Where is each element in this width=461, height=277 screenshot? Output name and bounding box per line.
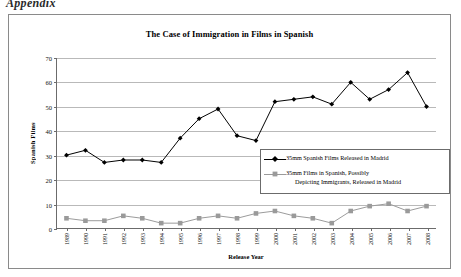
legend-label-spanish-films: 35mm Spanish Films Released in Madrid [286,154,389,163]
data-point-diamond [367,97,372,102]
x-axis-tick-label: 1992 [121,233,127,245]
x-axis-tick-label: 1996 [197,233,203,245]
x-axis-tick-mark [295,228,296,231]
data-point-diamond [197,116,202,121]
x-axis-tick-label: 2003 [330,233,336,245]
x-axis-tick-label: 1995 [178,233,184,245]
data-point-square [292,214,297,219]
square-marker-icon [272,171,278,177]
y-axis-tick-mark [54,58,57,59]
x-axis-tick-mark [86,228,87,231]
y-axis-tick-mark [54,156,57,157]
data-point-diamond [273,99,278,104]
data-point-diamond [159,160,164,165]
y-axis-tick-label: 0 [49,226,52,233]
data-point-diamond [310,94,315,99]
x-axis-tick-label: 2002 [311,233,317,245]
data-point-diamond [102,160,107,165]
gridline [57,205,436,206]
gridline [57,107,436,108]
x-axis-tick-label: 2007 [406,233,412,245]
x-axis-tick-mark [238,228,239,231]
x-axis-tick-label: 2006 [387,233,393,245]
data-point-square [216,214,221,219]
data-point-square [348,209,353,214]
x-axis-tick-label: 2001 [292,233,298,245]
y-axis-title: Spanish Films [29,58,36,229]
data-point-square [178,221,183,226]
data-point-square [64,216,69,221]
x-axis-tick-label: 1994 [159,233,165,245]
legend-item-spanish-films: 35mm Spanish Films Released in Madrid [264,154,445,164]
x-axis-tick-label: 1993 [140,233,146,245]
data-point-square [159,221,164,226]
chart-legend: 35mm Spanish Films Released in Madrid 35… [260,149,450,194]
x-axis-tick-mark [257,228,258,231]
x-axis-tick-label: 1998 [235,233,241,245]
x-axis-tick-label: 1991 [102,233,108,245]
series-line [66,204,426,223]
x-axis-tick-mark [428,228,429,231]
x-axis-tick-mark [333,228,334,231]
x-axis-tick-label: 1990 [83,233,89,245]
x-axis-tick-label: 2008 [425,233,431,245]
gridline [57,82,436,83]
x-axis-tick-label: 1999 [254,233,260,245]
data-point-diamond [178,136,183,141]
diamond-marker-icon [272,156,278,162]
y-axis-tick-mark [54,205,57,206]
data-point-diamond [291,97,296,102]
x-axis-tick-mark [105,228,106,231]
data-point-diamond [121,158,126,163]
x-axis-tick-mark [371,228,372,231]
data-point-square [273,209,278,214]
x-axis-tick-mark [67,228,68,231]
data-point-square [311,216,316,221]
data-point-square [254,211,259,216]
y-axis-tick-label: 20 [46,177,53,184]
data-point-square [405,209,410,214]
plot-area: 010203040506070 198919901991199219931994… [56,58,436,229]
y-axis-tick-label: 60 [46,79,53,86]
x-axis-tick-mark [181,228,182,231]
x-axis-tick-mark [314,228,315,231]
data-point-square [140,216,145,221]
y-axis-tick-label: 10 [46,201,53,208]
x-axis-tick-label: 2005 [368,233,374,245]
y-axis-tick-mark [54,82,57,83]
x-axis-title: Release Year [56,253,436,260]
appendix-heading: Appendix [6,0,56,11]
data-point-diamond [140,158,145,163]
x-axis-tick-label: 2000 [273,233,279,245]
gridline [57,58,436,59]
x-axis-tick-mark [409,228,410,231]
y-axis-tick-mark [54,180,57,181]
y-axis-tick-label: 70 [46,55,53,62]
x-axis-tick-mark [200,228,201,231]
x-axis-tick-label: 1997 [216,233,222,245]
plot-wrapper: 010203040506070 198919901991199219931994… [56,58,436,229]
data-point-diamond [386,87,391,92]
legend-key-square-icon [264,170,286,179]
x-axis-tick-mark [390,228,391,231]
y-axis-tick-mark [54,107,57,108]
x-axis-tick-mark [124,228,125,231]
x-axis-tick-mark [352,228,353,231]
data-point-square [83,218,88,223]
legend-key-diamond-icon [264,155,286,164]
data-point-diamond [254,138,259,143]
x-axis-tick-label: 2004 [349,233,355,245]
data-point-square [329,221,334,226]
data-point-diamond [83,148,88,153]
x-axis-tick-mark [143,228,144,231]
chart-title: The Case of Immigration in Films in Span… [9,29,450,39]
legend-label-immigrant-films: 35mm Films in Spanish, Possibly Depictin… [286,169,401,187]
y-axis-tick-label: 40 [46,128,53,135]
x-axis-tick-mark [162,228,163,231]
data-point-diamond [329,102,334,107]
chart-frame: The Case of Immigration in Films in Span… [8,14,451,269]
series-plot [57,58,436,228]
x-axis-tick-mark [276,228,277,231]
y-axis-tick-mark [54,131,57,132]
data-point-square [121,214,126,219]
